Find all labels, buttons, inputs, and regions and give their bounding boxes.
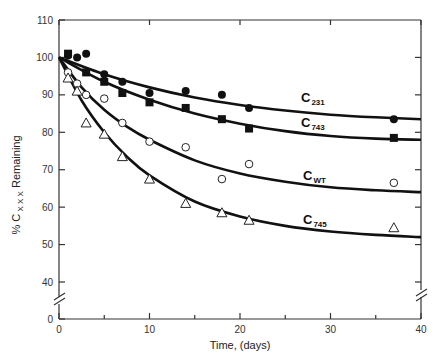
- y-tick-label: 50: [42, 239, 54, 250]
- fit-curve-c231: [59, 57, 421, 119]
- open-triangle-marker: [99, 129, 109, 138]
- curve-labels: C231C743CWTC745: [301, 90, 327, 229]
- filled-square-marker: [146, 98, 154, 106]
- axes: 0405060708090100110010203040: [36, 15, 427, 336]
- fit-curves: [59, 57, 421, 237]
- y-tick-label: 110: [37, 15, 53, 26]
- x-tick-label: 40: [415, 324, 427, 335]
- y-tick-label: 90: [42, 89, 54, 100]
- y-tick-label: 100: [36, 52, 53, 63]
- open-circle-marker: [119, 119, 127, 127]
- filled-circle-marker: [82, 50, 90, 58]
- x-axis-title: Time, (days): [210, 339, 271, 351]
- filled-circle-marker: [218, 91, 226, 99]
- x-tick-label: 0: [56, 324, 62, 335]
- open-circle-marker: [82, 91, 90, 99]
- filled-square-marker: [390, 134, 398, 142]
- curve-label-c745: C745: [303, 212, 327, 229]
- filled-square-marker: [182, 104, 190, 112]
- open-triangle-marker: [81, 118, 91, 127]
- y-tick-label: 80: [42, 127, 54, 138]
- open-circle-marker: [146, 138, 154, 146]
- fit-curve-c743: [59, 57, 421, 139]
- filled-circle-marker: [390, 115, 398, 123]
- y-tick-label: 40: [42, 277, 54, 288]
- x-tick-label: 10: [144, 324, 156, 335]
- open-circle-marker: [218, 175, 226, 183]
- filled-circle-marker: [146, 89, 154, 97]
- filled-square-marker: [218, 115, 226, 123]
- filled-square-marker: [64, 50, 72, 58]
- filled-circle-marker: [73, 53, 81, 61]
- x-tick-label: 20: [234, 324, 246, 335]
- y-tick-label: 0: [47, 314, 53, 325]
- open-triangle-marker: [389, 223, 399, 232]
- fit-curve-c745: [59, 57, 421, 237]
- open-circle-marker: [100, 95, 108, 103]
- filled-circle-marker: [182, 87, 190, 95]
- open-circle-marker: [182, 143, 190, 151]
- open-circle-marker: [390, 179, 398, 187]
- curve-label-c231: C231: [301, 90, 325, 107]
- curve-label-c743: C743: [301, 115, 325, 132]
- x-tick-label: 30: [325, 324, 337, 335]
- filled-square-marker: [245, 125, 253, 133]
- y-tick-label: 70: [42, 164, 54, 175]
- filled-square-marker: [118, 89, 126, 97]
- chart: 0405060708090100110010203040 C231C743CWT…: [0, 0, 442, 362]
- open-circle-marker: [245, 160, 253, 168]
- filled-square-marker: [100, 78, 108, 86]
- curve-label-cwt: CWT: [303, 168, 326, 185]
- filled-circle-marker: [245, 104, 253, 112]
- filled-square-marker: [82, 68, 90, 76]
- filled-circle-marker: [100, 70, 108, 78]
- filled-circle-marker: [118, 78, 126, 86]
- y-tick-label: 60: [42, 202, 54, 213]
- y-axis-title: % C X X X Remaining: [10, 135, 25, 234]
